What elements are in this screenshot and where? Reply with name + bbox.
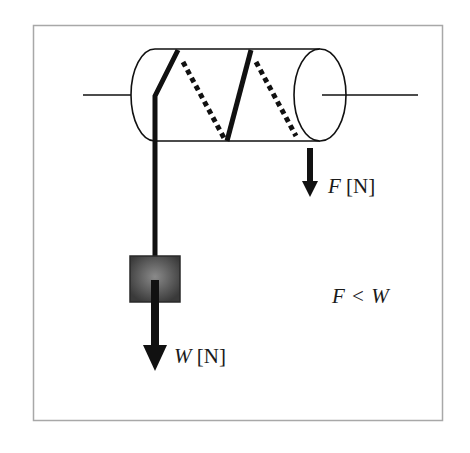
- label-force-f: F [N]: [328, 174, 375, 199]
- label-force-w-symbol: W: [174, 344, 192, 368]
- rope-front-segment-1: [155, 50, 178, 258]
- relation-right: W: [371, 284, 389, 308]
- relation-op: <: [352, 284, 364, 308]
- relation-left: F: [332, 284, 345, 308]
- label-force-w: W [N]: [174, 344, 226, 369]
- label-relation: F < W: [332, 284, 389, 309]
- frame-border: [34, 26, 443, 421]
- arrow-f-icon: [302, 148, 318, 197]
- label-force-f-unit: [N]: [346, 174, 375, 198]
- label-force-w-unit: [N]: [197, 344, 226, 368]
- label-force-f-symbol: F: [328, 174, 341, 198]
- rope-back-segment-1: [183, 62, 224, 138]
- diagram-svg: [0, 0, 470, 453]
- rope-back-segment-2: [256, 62, 296, 136]
- diagram-canvas: F [N] W [N] F < W: [0, 0, 470, 453]
- rope-front-segment-2: [227, 50, 251, 141]
